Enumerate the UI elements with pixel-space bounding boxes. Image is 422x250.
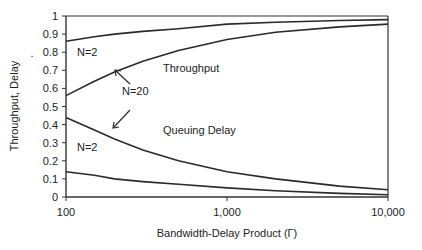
annotation-n20: N=20	[122, 85, 149, 97]
annotation-queuing-delay: Queuing Delay	[163, 124, 236, 136]
x-tick-label: 10,000	[371, 206, 405, 218]
y-tick-label: 0.9	[43, 28, 58, 40]
y-axis-stray-mark: .	[30, 47, 33, 59]
y-tick-label: 0.8	[43, 46, 58, 58]
arrow-to-delay-n20	[113, 110, 130, 128]
y-tick-label: 0.4	[43, 119, 58, 131]
y-tick-label: 0	[52, 191, 58, 203]
x-tick-label: 1,000	[213, 206, 241, 218]
y-tick-label: 1	[52, 10, 58, 22]
y-tick-label: 0.3	[43, 137, 58, 149]
y-axis-ticks: 00.10.20.30.40.50.60.70.80.91	[43, 10, 66, 203]
annotation-n2-throughput: N=2	[77, 46, 98, 58]
arrow-to-throughput-n20	[115, 70, 130, 84]
x-axis-ticks: 1001,00010,000	[57, 197, 405, 218]
curves	[66, 20, 388, 195]
annotation-throughput: Throughput	[163, 62, 219, 74]
curve-queuing-delay-n-2	[66, 172, 388, 195]
y-tick-label: 0.5	[43, 101, 58, 113]
y-tick-label: 0.6	[43, 82, 58, 94]
y-tick-label: 0.1	[43, 173, 58, 185]
x-tick-label: 100	[57, 206, 75, 218]
y-tick-label: 0.7	[43, 64, 58, 76]
chart: 00.10.20.30.40.50.60.70.80.91 1001,00010…	[0, 0, 422, 250]
y-axis-title: Throughput, Delay	[8, 60, 20, 151]
annotation-n2-delay: N=2	[77, 141, 98, 153]
y-tick-label: 0.2	[43, 155, 58, 167]
x-axis-title: Bandwidth-Delay Product (Γ)	[157, 227, 298, 239]
curve-throughput-n-2	[66, 20, 388, 42]
